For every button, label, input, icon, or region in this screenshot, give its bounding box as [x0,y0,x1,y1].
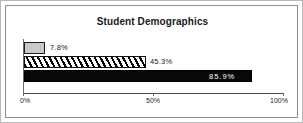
x-tick-label-50: 50% [146,97,160,104]
x-tick-50 [153,93,154,96]
x-tick-label-100: 100% [270,97,288,104]
bar-row-series-3: 85.9% [24,70,284,82]
bar-label-series-3: 85.9% [209,72,235,81]
bar-label-series-2: 45.3% [150,57,172,66]
chart-screenshot: Student Demographics 0% 50% 100% 7.8% 45… [0,0,303,123]
bar-label-series-1: 7.8% [50,43,68,52]
chart-frame: Student Demographics 0% 50% 100% 7.8% 45… [5,5,298,118]
bar-group: 7.8% 45.3% 85.9% [24,42,284,93]
x-tick-100 [283,93,284,96]
bar-series-2[interactable] [24,56,146,68]
bar-series-1[interactable] [24,42,45,54]
bar-row-series-2: 45.3% [24,56,284,68]
bar-row-series-1: 7.8% [24,42,284,54]
x-tick-label-0: 0% [20,97,30,104]
x-tick-0 [23,93,24,96]
plot-area: 0% 50% 100% 7.8% 45.3% 85.9% [6,6,299,119]
